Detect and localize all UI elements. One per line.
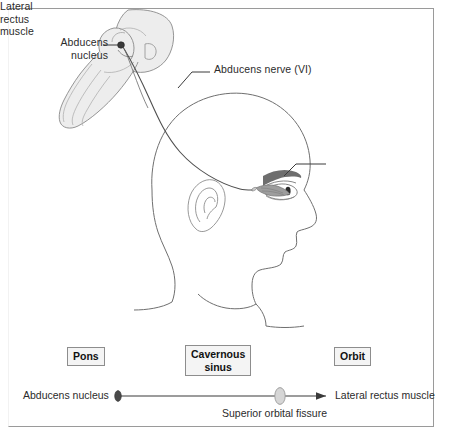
pathway-end-label: Lateral rectus muscle xyxy=(335,389,435,402)
head-outline xyxy=(134,93,317,327)
zone-box-cavernous-sinus: Cavernous sinus xyxy=(185,345,251,376)
label-lateral-rectus-muscle: Lateral rectus muscle xyxy=(0,0,34,38)
pathway-axis-arrowhead xyxy=(316,392,326,400)
zone-box-pons: Pons xyxy=(67,347,105,366)
label-abducens-nerve: Abducens nerve (VI) xyxy=(214,63,344,76)
ear xyxy=(188,180,225,232)
leader-line-abducens-nerve xyxy=(178,72,210,88)
label-abducens-nucleus: Abducens nucleus xyxy=(36,36,108,61)
pathway-axis-graphic xyxy=(115,388,326,405)
brainstem-illustration xyxy=(59,10,173,128)
superior-orbital-fissure-marker xyxy=(275,388,285,405)
superior-orbital-fissure-label: Superior orbital fissure xyxy=(222,407,327,420)
figure-root: Abducens nucleus Abducens nerve (VI) Lat… xyxy=(0,0,451,434)
abducens-nucleus-marker xyxy=(115,391,122,402)
eye-and-lateral-rectus xyxy=(252,170,301,200)
pathway-start-label: Abducens nucleus xyxy=(23,389,109,402)
zone-box-orbit: Orbit xyxy=(334,347,371,366)
